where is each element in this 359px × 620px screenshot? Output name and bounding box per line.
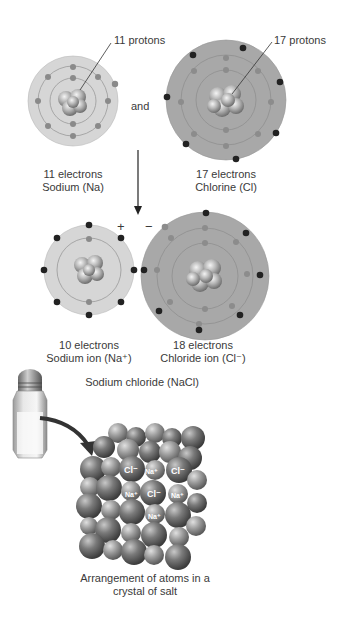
- crystal-label-na: Na⁺: [145, 465, 158, 478]
- chlorine-electrons-label: 17 electrons: [186, 168, 266, 181]
- connector-and: and: [131, 100, 149, 113]
- reaction-arrow-icon: [134, 150, 142, 215]
- crystal-caption-line2: crystal of salt: [70, 585, 220, 598]
- salt-shaker-icon: [13, 369, 47, 458]
- nucleus-icon: [207, 85, 244, 117]
- crystal-label-cl: Cl⁻: [124, 464, 138, 477]
- sodium-ion-name-label: Sodium ion (Na⁺): [44, 352, 134, 365]
- crystal-label-na: Na⁺: [125, 488, 138, 501]
- sodium-atom: [28, 43, 118, 146]
- sodium-protons-label: 11 protons: [114, 34, 165, 47]
- sodium-ion: [41, 222, 138, 319]
- sodium-ion-electrons-label: 10 electrons: [44, 339, 134, 352]
- crystal-label-na: Na⁺: [148, 510, 161, 523]
- crystal-label-na: Na⁺: [171, 489, 184, 502]
- sodium-ion-charge: +: [117, 220, 125, 233]
- chlorine-protons-label: 17 protons: [274, 34, 326, 47]
- chloride-ion-name-label: Chloride ion (Cl⁻): [158, 352, 248, 365]
- crystal-label-cl: Cl⁻: [171, 465, 185, 478]
- compound-title: Sodium chloride (NaCl): [84, 376, 200, 389]
- crystal-caption-line1: Arrangement of atoms in a: [70, 572, 220, 585]
- nucleus-icon: [74, 255, 104, 284]
- chloride-ion: [141, 210, 269, 340]
- chlorine-name-label: Chlorine (Cl): [186, 181, 266, 194]
- sodium-name-label: Sodium (Na): [33, 181, 113, 194]
- ionic-bond-diagram: [0, 0, 359, 620]
- sodium-electrons-label: 11 electrons: [33, 168, 113, 181]
- chloride-ion-charge: −: [145, 220, 153, 233]
- crystal-label-cl: Cl⁻: [147, 488, 161, 501]
- chloride-ion-electrons-label: 18 electrons: [158, 339, 248, 352]
- chlorine-atom: [164, 40, 286, 162]
- salt-crystal-lattice: [76, 423, 207, 570]
